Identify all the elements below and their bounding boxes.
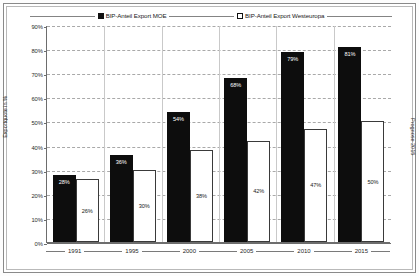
bar-value-label: 47% <box>305 182 326 188</box>
bar-westeuropa-1995[interactable]: 30% <box>133 170 156 242</box>
bars-2000: 54%38% <box>161 26 218 242</box>
bar-value-label: 28% <box>54 179 75 185</box>
x-rule <box>84 251 103 252</box>
x-rule <box>161 251 180 252</box>
category-separator <box>162 26 163 242</box>
bars-1995: 36%30% <box>104 26 161 242</box>
category-separator <box>334 26 335 242</box>
y-tick-label-0: 0% <box>35 241 43 247</box>
bar-group-1991: 28%26% <box>47 26 104 242</box>
category-separator <box>276 26 277 242</box>
legend-rule-middle <box>169 16 234 17</box>
y-axis-title: Exportquote in % <box>2 96 12 138</box>
bar-value-label: 38% <box>191 193 212 199</box>
legend-rule-right <box>327 16 392 17</box>
x-rule <box>371 251 390 252</box>
legend-label-moe: BIP-Anteil Export MOE <box>106 12 167 20</box>
bar-moe-1995[interactable]: 36% <box>110 155 133 242</box>
legend-rule-left <box>30 16 95 17</box>
bar-westeuropa-2000[interactable]: 38% <box>190 150 213 242</box>
bar-value-label: 79% <box>282 56 303 62</box>
bar-group-2000: 54%38% <box>161 26 218 242</box>
category-separator <box>104 26 105 242</box>
category-separator <box>219 26 220 242</box>
y-axis-title-right: Prognose 2015 <box>406 118 416 155</box>
bar-value-label: 50% <box>362 179 383 185</box>
x-tick-label-1991: 1991 <box>65 248 84 254</box>
x-rule <box>218 251 237 252</box>
bar-moe-2005[interactable]: 68% <box>224 78 247 242</box>
x-rule <box>103 251 122 252</box>
legend-label-westeuropa: BIP-Anteil Export Westeuropa <box>245 12 324 20</box>
x-category-2005: 2005 <box>218 243 275 259</box>
bar-moe-1991[interactable]: 28% <box>53 175 76 243</box>
x-rule <box>333 251 352 252</box>
bar-value-label: 54% <box>168 116 189 122</box>
bar-group-2005: 68%42% <box>219 26 276 242</box>
chart-legend: BIP-Anteil Export MOE BIP-Anteil Export … <box>30 9 392 23</box>
x-tick-label-2010: 2010 <box>294 248 313 254</box>
x-axis: 199119952000200520102015 <box>46 243 390 259</box>
x-category-1995: 1995 <box>103 243 160 259</box>
bar-value-label: 30% <box>134 203 155 209</box>
filled-square-icon <box>98 13 104 19</box>
bar-value-label: 36% <box>111 159 132 165</box>
y-tick-label-30: 30% <box>31 169 43 175</box>
x-rule <box>275 251 294 252</box>
bar-group-2010: 79%47% <box>276 26 333 242</box>
bars-2010: 79%47% <box>276 26 333 242</box>
y-tick-label-80: 80% <box>31 48 43 54</box>
x-rule <box>142 251 161 252</box>
bar-moe-2010[interactable]: 79% <box>281 52 304 242</box>
bar-moe-2015[interactable]: 81% <box>338 47 361 242</box>
bar-westeuropa-1991[interactable]: 26% <box>76 179 99 242</box>
y-tick-label-90: 90% <box>31 24 43 30</box>
bar-group-2015: 81%50% <box>333 26 390 242</box>
hollow-square-icon <box>237 13 243 19</box>
x-rule <box>46 251 65 252</box>
bar-westeuropa-2010[interactable]: 47% <box>304 129 327 242</box>
legend-item-moe[interactable]: BIP-Anteil Export MOE <box>95 12 170 20</box>
bars-1991: 28%26% <box>47 26 104 242</box>
y-tick-label-40: 40% <box>31 145 43 151</box>
y-tick-label-70: 70% <box>31 72 43 78</box>
x-category-2015: 2015 <box>333 243 390 259</box>
bar-value-label: 68% <box>225 82 246 88</box>
bar-moe-2000[interactable]: 54% <box>167 112 190 242</box>
x-tick-label-1995: 1995 <box>122 248 141 254</box>
x-tick-label-2000: 2000 <box>180 248 199 254</box>
bar-westeuropa-2005[interactable]: 42% <box>247 141 270 242</box>
bar-value-label: 81% <box>339 51 360 57</box>
x-category-2010: 2010 <box>275 243 332 259</box>
y-tick-label-50: 50% <box>31 120 43 126</box>
y-tick-label-20: 20% <box>31 193 43 199</box>
plot-area: 90%80%70%60%50%40%30%20%10%0% 28%26%36%3… <box>46 26 390 243</box>
bar-value-label: 42% <box>248 188 269 194</box>
x-rule <box>256 251 275 252</box>
x-rule <box>199 251 218 252</box>
bars-2005: 68%42% <box>219 26 276 242</box>
bars-2015: 81%50% <box>333 26 390 242</box>
bar-westeuropa-2015[interactable]: 50% <box>361 121 384 242</box>
chart-figure: BIP-Anteil Export MOE BIP-Anteil Export … <box>0 0 419 276</box>
bar-group-1995: 36%30% <box>104 26 161 242</box>
x-category-2000: 2000 <box>161 243 218 259</box>
x-rule <box>314 251 333 252</box>
x-category-1991: 1991 <box>46 243 103 259</box>
bar-value-label: 26% <box>77 208 98 214</box>
x-tick-label-2015: 2015 <box>352 248 371 254</box>
x-tick-label-2005: 2005 <box>237 248 256 254</box>
y-tick-label-10: 10% <box>31 217 43 223</box>
legend-item-westeuropa[interactable]: BIP-Anteil Export Westeuropa <box>234 12 327 20</box>
y-tick-label-60: 60% <box>31 96 43 102</box>
